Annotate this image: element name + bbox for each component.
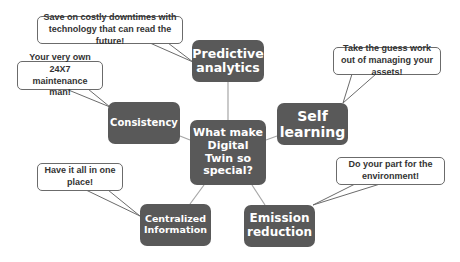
node-center-question: What make Digital Twin so special? [190, 120, 266, 185]
callout-predictive: Save on costly downtimes with technology… [37, 16, 183, 44]
callout-text: Take the guess work out of managing your… [338, 43, 436, 78]
node-self-learning: Self learning [277, 103, 348, 145]
callout-text: Save on costly downtimes with technology… [42, 12, 178, 47]
node-label: Emission reduction [246, 212, 313, 240]
node-label: Centralized Information [142, 214, 209, 236]
node-predictive-analytics: Predictive analytics [192, 40, 264, 82]
callout-consistency: Your very own 24X7 maintenance man! [17, 61, 103, 90]
node-label: Predictive analytics [192, 47, 263, 76]
center-label: What make Digital Twin so special? [192, 127, 264, 178]
node-consistency: Consistency [108, 102, 180, 144]
callout-self-learning: Take the guess work out of managing your… [333, 47, 441, 75]
callout-text: Do your part for the environment! [341, 159, 440, 182]
node-label: Consistency [110, 117, 178, 129]
node-centralized-information: Centralized Information [140, 204, 211, 246]
callout-emission: Do your part for the environment! [336, 157, 445, 185]
callout-text: Your very own 24X7 maintenance man! [22, 52, 98, 99]
callout-centralized: Have it all in one place! [37, 163, 123, 191]
node-label: Self learning [280, 108, 345, 140]
node-emission-reduction: Emission reduction [244, 205, 315, 247]
callout-text: Have it all in one place! [42, 165, 118, 188]
